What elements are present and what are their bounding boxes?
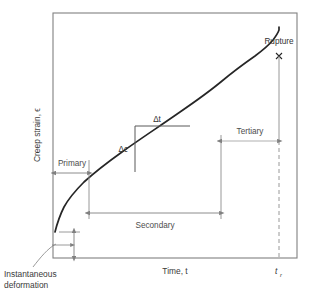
rupture-label: Rupture bbox=[264, 37, 294, 46]
delta-t-label: Δt bbox=[153, 115, 161, 124]
x-axis-tick-tr-base: t bbox=[275, 266, 278, 276]
creep-curve-figure: Rupture Primary Secondary Tertiary Δt Δϵ… bbox=[0, 0, 315, 297]
tertiary-label: Tertiary bbox=[237, 127, 265, 136]
y-axis-label: Creep strain, ϵ bbox=[32, 108, 42, 162]
instantaneous-deformation-label-line1: Instantaneous bbox=[4, 269, 57, 279]
secondary-label: Secondary bbox=[135, 221, 175, 230]
creep-curve-svg: Rupture Primary Secondary Tertiary Δt Δϵ… bbox=[0, 0, 315, 297]
instantaneous-deformation-label-line2: deformation bbox=[4, 280, 49, 290]
primary-label: Primary bbox=[58, 159, 87, 168]
x-axis-tick-tr: t r bbox=[275, 266, 283, 278]
x-axis-label: Time, t bbox=[162, 266, 188, 276]
x-axis-tick-tr-subscript: r bbox=[280, 272, 283, 278]
delta-strain-label: Δϵ bbox=[118, 145, 127, 154]
